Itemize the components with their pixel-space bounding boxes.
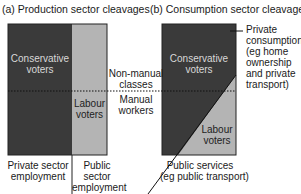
panel-a-title: (a) Production sector cleavages (2, 3, 150, 15)
manual-workers-label: Manual workers (108, 94, 164, 116)
panel-a-private-region (8, 24, 72, 155)
public-services-annotation: Public services (eg public transport) (160, 160, 240, 182)
panel-b-labour-label: Labour voters (198, 124, 236, 146)
panel-a-labour-label: Labour voters (72, 98, 107, 120)
non-manual-classes-label: Non-manual classes (108, 68, 164, 90)
private-consumption-annotation: Private consumption (eg home ownership a… (246, 24, 301, 90)
panel-a-public-region (72, 24, 107, 155)
panel-b-title: (b) Consumption sector cleavages (150, 3, 301, 15)
panel-a-conservative-label: Conservative voters (8, 53, 72, 75)
panel-b-conservative-label: Conservative voters (162, 53, 236, 75)
public-sector-employment-label: Public sector employment (72, 160, 122, 193)
private-sector-employment-label: Private sector employment (6, 160, 70, 182)
